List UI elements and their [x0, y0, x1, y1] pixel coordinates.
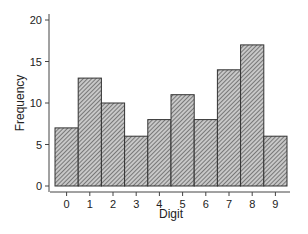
bar-digit-2 [101, 103, 124, 186]
x-tick-label: 7 [226, 198, 232, 210]
x-tick-label: 2 [110, 198, 116, 210]
y-tick-label: 5 [36, 139, 42, 151]
bar-digit-7 [217, 70, 240, 186]
y-axis-title: Frequency [13, 75, 27, 132]
bars [55, 45, 287, 186]
x-tick-label: 0 [64, 198, 70, 210]
bar-digit-4 [148, 120, 171, 186]
x-tick-label: 9 [272, 198, 278, 210]
y-axis: 05101520 [30, 14, 49, 192]
histogram-chart: 05101520 0123456789 Frequency Digit [0, 0, 308, 234]
bar-digit-5 [171, 95, 194, 186]
x-tick-label: 1 [87, 198, 93, 210]
bar-digit-9 [264, 136, 287, 186]
y-tick-label: 15 [30, 56, 42, 68]
bar-digit-1 [78, 78, 101, 186]
bar-digit-6 [194, 120, 217, 186]
y-tick-label: 10 [30, 97, 42, 109]
x-tick-label: 8 [249, 198, 255, 210]
x-tick-label: 6 [203, 198, 209, 210]
x-tick-label: 3 [133, 198, 139, 210]
bar-digit-8 [241, 45, 264, 186]
bar-digit-0 [55, 128, 78, 186]
x-axis-title: Digit [159, 207, 184, 221]
bar-digit-3 [125, 136, 148, 186]
y-tick-label: 0 [36, 180, 42, 192]
y-tick-label: 20 [30, 14, 42, 26]
